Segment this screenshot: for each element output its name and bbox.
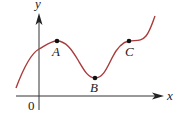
point-b-label: B [90, 80, 98, 95]
function-graph-diagram: x y 0 A B C [0, 0, 181, 116]
x-axis-label: x [166, 88, 173, 103]
point-a-marker [55, 39, 60, 44]
graph-svg: x y 0 A B C [0, 0, 181, 116]
point-a-label: A [51, 44, 60, 59]
point-c-marker [127, 39, 132, 44]
y-axis-label: y [33, 0, 41, 11]
origin-label: 0 [28, 98, 35, 113]
function-curve [16, 16, 155, 88]
point-c-label: C [125, 44, 134, 59]
